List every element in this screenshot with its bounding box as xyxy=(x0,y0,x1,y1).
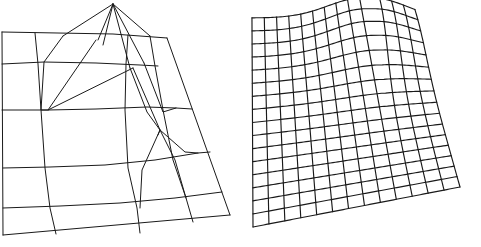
coarse-edge-fold-1 xyxy=(41,36,63,110)
fine-col-7 xyxy=(336,3,365,205)
coarse-edge-ridge-e xyxy=(113,4,144,63)
coarse-edge-outline-left xyxy=(2,32,3,235)
figure-root xyxy=(0,0,481,247)
coarse-edge-fold-6 xyxy=(140,130,160,208)
coarse-mesh-panel xyxy=(0,0,240,247)
fine-col-5 xyxy=(313,11,333,212)
coarse-edge-row-2 xyxy=(2,107,192,110)
coarse-mesh-svg xyxy=(0,0,240,247)
fine-col-0 xyxy=(252,18,253,227)
coarse-edge-col-1 xyxy=(35,33,56,234)
fine-col-6 xyxy=(324,7,348,208)
fine-col-4 xyxy=(301,14,317,215)
fine-mesh-panel xyxy=(240,0,481,247)
coarse-edge-outline-right xyxy=(167,38,230,215)
coarse-edge-fold-2 xyxy=(48,40,133,110)
coarse-edge-outline-bottom xyxy=(3,215,230,235)
coarse-edge-outline-top xyxy=(2,32,167,38)
fine-row-0 xyxy=(252,0,415,18)
coarse-edge-col-3 xyxy=(150,36,193,222)
coarse-edge-row-3 xyxy=(3,152,210,168)
coarse-edge-ridge-f xyxy=(113,4,150,36)
coarse-edge-row-4 xyxy=(3,192,222,208)
fine-mesh-svg xyxy=(240,0,481,247)
coarse-edge-ridge-a xyxy=(63,4,113,36)
